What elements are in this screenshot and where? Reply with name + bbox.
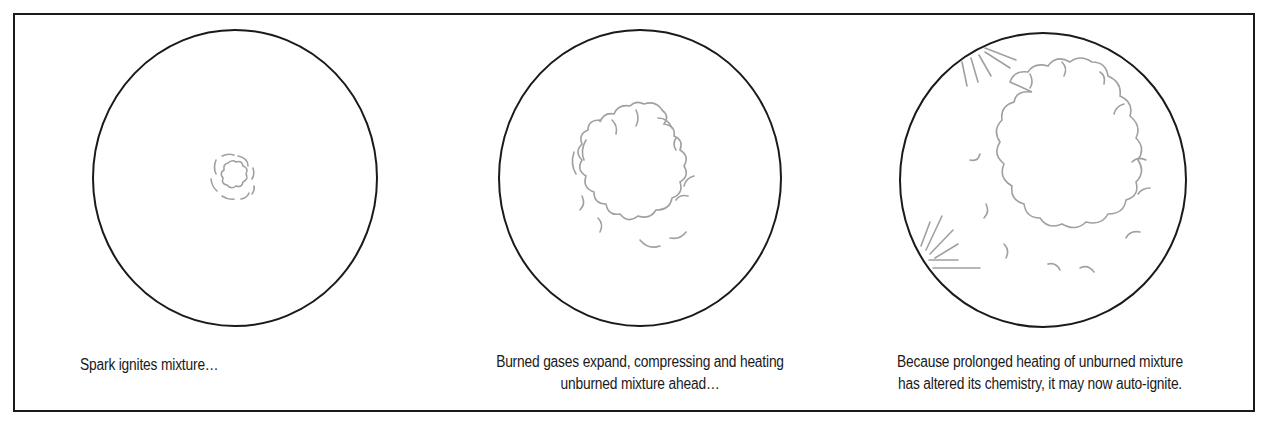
panel-3-chamber bbox=[900, 33, 1186, 327]
flame-front-medium-icon bbox=[572, 102, 694, 247]
panel-3-caption: Because prolonged heating of unburned mi… bbox=[825, 351, 1255, 395]
cylinder-outline-2 bbox=[499, 30, 781, 326]
spark-kernel-icon bbox=[211, 154, 254, 199]
panel-1-chamber bbox=[93, 30, 377, 326]
flame-front-large-icon bbox=[970, 58, 1150, 272]
cylinder-outline-3 bbox=[900, 33, 1186, 327]
cylinder-outline-1 bbox=[93, 30, 377, 326]
auto-ignition-rays-bottom-icon bbox=[921, 216, 980, 268]
panel-2-chamber bbox=[499, 30, 781, 326]
caption-line: Burned gases expand, compressing and hea… bbox=[434, 351, 847, 373]
caption-line: Spark ignites mixture… bbox=[80, 354, 304, 376]
panel-1-caption: Spark ignites mixture… bbox=[80, 354, 304, 376]
panel-2-caption: Burned gases expand, compressing and hea… bbox=[434, 351, 847, 395]
caption-line: unburned mixture ahead… bbox=[434, 373, 847, 395]
caption-line: has altered its chemistry, it may now au… bbox=[825, 373, 1255, 395]
caption-line: Because prolonged heating of unburned mi… bbox=[825, 351, 1255, 373]
